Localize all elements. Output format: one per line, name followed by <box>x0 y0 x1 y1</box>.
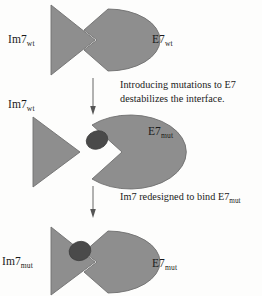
panel-wt-shapes <box>0 0 262 80</box>
im7-wt-triangle-shape <box>51 5 95 75</box>
protein-interface-redesign-figure: Im7wt E7wt Introducing mutations to E7 d… <box>0 0 262 296</box>
label-im7-mut: Im7mut <box>2 255 33 270</box>
im7-wt-triangle-shape-2 <box>33 117 80 187</box>
arrow-2-group: Im7 redesigned to bind E7mut <box>0 184 262 224</box>
arrow-1-caption-line-2: destabilizes the interface. <box>120 92 225 105</box>
arrow-2-caption-line-1: Im7 redesigned to bind E7mut <box>120 190 241 207</box>
arrow-1-caption-line-1: Introducing mutations to E7 <box>120 78 236 91</box>
label-im7-wt: Im7wt <box>8 33 35 48</box>
panel-wt-complex: Im7wt E7wt <box>0 0 262 80</box>
panel-mut-shapes <box>0 112 262 192</box>
label-im7-wt-2: Im7wt <box>8 98 35 113</box>
label-e7-mut: E7mut <box>148 125 173 140</box>
label-e7-wt: E7wt <box>152 33 173 48</box>
panel-redesigned-shapes <box>0 222 262 296</box>
panel-mut-destabilized: Im7wt E7mut <box>0 112 262 192</box>
panel-redesigned-complex: Im7mut E7mut <box>0 222 262 296</box>
im7-mut-triangle-shape <box>51 227 95 295</box>
label-e7-mut-2: E7mut <box>152 257 177 272</box>
